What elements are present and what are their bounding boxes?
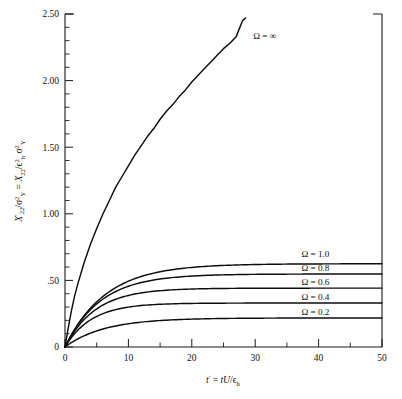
series-label: Ω = 0.4	[301, 292, 329, 302]
y-axis-title: X′22/σ2Y = X22/ϵ2h σ2Y	[13, 140, 27, 223]
curve-1	[65, 264, 382, 347]
x-tick-label: 0	[63, 353, 68, 363]
curve-0-4	[65, 303, 382, 347]
series-label: Ω = 0.2	[301, 307, 329, 317]
x-axis-tick-labels: 01020304050	[63, 353, 387, 363]
x-tick-label: 40	[314, 353, 324, 363]
x-tick-label: 10	[124, 353, 134, 363]
series-label: Ω = 0.8	[301, 263, 329, 273]
x-axis-minor-ticks	[97, 343, 351, 348]
x-tick-label: 20	[187, 353, 197, 363]
series-label: Ω = 0.6	[301, 277, 329, 287]
y-tick-label: 1.00	[42, 209, 59, 219]
y-tick-label: .50	[47, 276, 59, 286]
axis-frame	[65, 14, 382, 347]
series-label: Ω = ∞	[253, 31, 277, 41]
x-tick-label: 50	[377, 353, 387, 363]
x-axis-title: t′ = tU/ϵh	[206, 374, 241, 387]
svg-text:t′ = tU/ϵh: t′ = tU/ϵh	[206, 374, 241, 387]
y-tick-label: 0	[54, 342, 59, 352]
data-curves	[65, 18, 382, 347]
y-tick-label: 2.50	[42, 9, 59, 19]
plot-frame	[65, 14, 382, 347]
x-tick-label: 30	[250, 353, 260, 363]
y-axis-minor-ticks	[65, 27, 70, 333]
y-axis-tick-labels: 0.501.001.502.002.50	[42, 9, 59, 352]
y-tick-label: 2.00	[42, 76, 59, 86]
y-axis-major-ticks	[65, 14, 73, 347]
y-tick-label: 1.50	[42, 143, 59, 153]
line-chart: 0.501.001.502.002.50 01020304050 Ω = ∞Ω …	[0, 0, 402, 399]
svg-text:X′22/σ2Y = X22/ϵ2h σ2Y: X′22/σ2Y = X22/ϵ2h σ2Y	[13, 140, 27, 223]
series-label: Ω = 1.0	[301, 249, 329, 259]
figure-container: 0.501.001.502.002.50 01020304050 Ω = ∞Ω …	[0, 0, 402, 399]
curve-infinity	[65, 18, 246, 347]
